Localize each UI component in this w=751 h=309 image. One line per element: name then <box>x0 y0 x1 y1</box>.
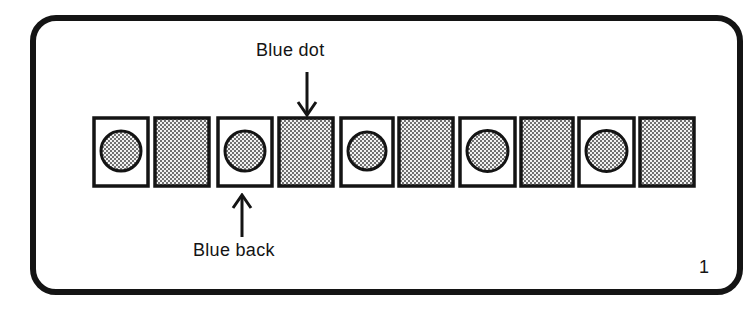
dot-icon <box>225 131 265 171</box>
card-dot-side <box>460 118 515 186</box>
card-back-side <box>521 118 573 186</box>
card-back-side <box>399 118 453 186</box>
card-back-side <box>155 118 209 186</box>
card-dot-side <box>579 118 634 186</box>
dot-icon <box>348 132 386 170</box>
dot-icon <box>101 131 141 171</box>
figure-number: 1 <box>699 257 709 278</box>
dot-icon <box>467 131 508 172</box>
arrow-down-icon <box>295 70 315 118</box>
card-dot-side <box>341 118 393 186</box>
card-dot-side <box>218 118 272 186</box>
blue-back-label: Blue back <box>193 240 275 261</box>
card-back-side <box>279 118 333 186</box>
card-dot-side <box>94 118 148 186</box>
arrow-up-icon <box>230 193 250 239</box>
card-back-side <box>640 118 694 186</box>
card-row <box>0 0 751 309</box>
blue-dot-label: Blue dot <box>256 40 324 61</box>
dot-icon <box>586 131 627 172</box>
